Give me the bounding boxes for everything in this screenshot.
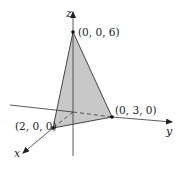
- point-z-label: (0, 0, 6): [78, 26, 120, 38]
- point-y: [110, 115, 114, 119]
- point-z: [71, 30, 75, 34]
- y-axis-label: y: [165, 125, 173, 138]
- y-axis-front: [112, 117, 172, 122]
- point-x-label: (2, 0, 0): [15, 120, 57, 132]
- x-axis-label: x: [14, 147, 21, 160]
- z-axis-label: z: [65, 7, 72, 20]
- point-y-label: (0, 3, 0): [115, 104, 157, 116]
- diagram-canvas: z y x (0, 0, 6) (0, 3, 0) (2, 0, 0): [0, 0, 188, 172]
